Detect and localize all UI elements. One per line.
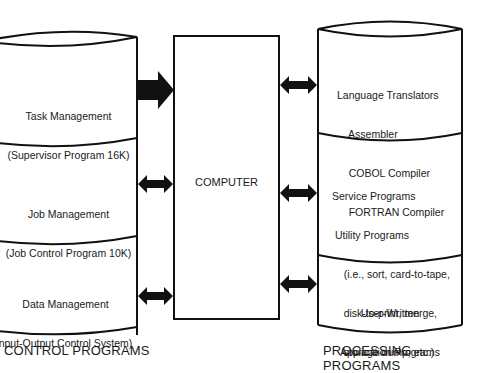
task-management-line-2: (Supervisor Program 16K) <box>0 149 137 162</box>
task-management-line-1: Task Management <box>0 110 137 123</box>
translators-line-2: Assembler <box>337 128 444 141</box>
computer-label: COMPUTER <box>174 176 279 189</box>
task-management-label: Task Management (Supervisor Program 16K) <box>0 84 137 175</box>
arrow-task-to-computer <box>138 71 174 109</box>
service-line-3: (i.e., sort, card-to-tape, <box>332 268 450 281</box>
arrow-computer-service <box>280 184 317 202</box>
job-management-line-2: (Job Control Program 10K) <box>0 247 137 260</box>
control-programs-caption: CONTROL PROGRAMS <box>4 343 150 358</box>
control-cylinder-top-ellipse <box>0 32 137 46</box>
service-line-2: Utility Programs <box>332 229 450 242</box>
processing-cylinder-top-ellipse <box>318 22 462 37</box>
job-management-label: Job Management (Job Control Program 10K) <box>0 182 137 273</box>
data-management-line-1: Data Management <box>0 298 137 311</box>
arrow-computer-translators <box>280 76 317 94</box>
translators-line-1: Language Translators <box>337 89 444 102</box>
user-written-line-1: User-Written <box>318 307 462 320</box>
job-management-line-1: Job Management <box>0 208 137 221</box>
service-line-1: Service Programs <box>332 190 450 203</box>
processing-programs-caption: PROCESSING PROGRAMS <box>323 343 489 373</box>
arrow-job-computer <box>138 175 173 193</box>
arrow-data-computer <box>138 287 173 305</box>
arrow-computer-user-written <box>280 275 317 293</box>
